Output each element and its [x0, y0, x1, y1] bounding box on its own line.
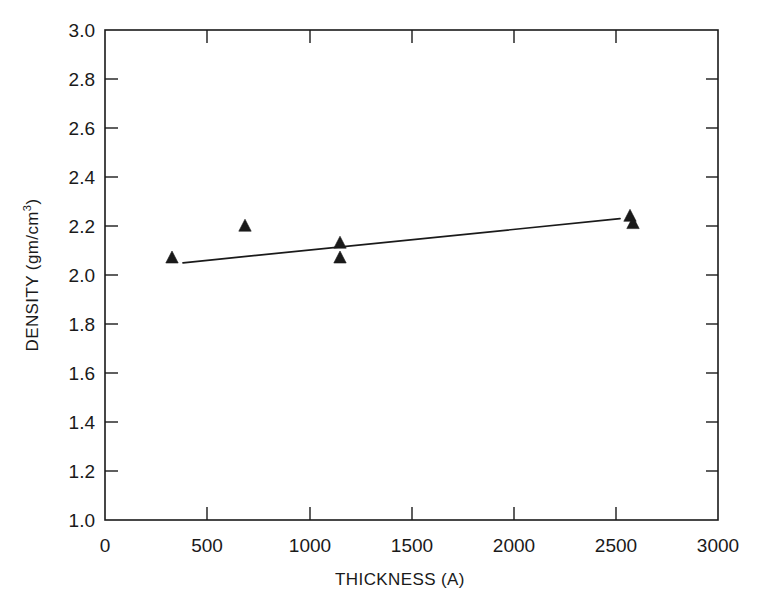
y-tick-label: 2.4 [69, 167, 96, 188]
x-tick-label: 0 [100, 535, 111, 556]
y-tick-label: 1.8 [69, 314, 95, 335]
density-vs-thickness-chart: 3.0 2.8 2.6 2.4 2.2 2.0 1.8 1.6 1.4 1.2 … [0, 0, 758, 608]
y-tick-label: 1.4 [69, 412, 96, 433]
y-tick-label: 1.2 [69, 461, 95, 482]
y-tick-label: 2.8 [69, 69, 95, 90]
x-tick-label: 3000 [697, 535, 739, 556]
y-axis-title-paren: ) [23, 199, 42, 205]
y-axis-title-main: DENSITY (gm/cm [23, 211, 42, 351]
x-tick-label: 1000 [289, 535, 331, 556]
data-point-marker [334, 251, 346, 263]
data-point-marker [239, 219, 251, 231]
data-point-marker [334, 236, 346, 248]
x-axis-ticks-top [207, 30, 616, 43]
y-tick-label: 2.2 [69, 216, 95, 237]
x-tick-labels: 0 500 1000 1500 2000 2500 3000 [100, 535, 739, 556]
plot-canvas: 3.0 2.8 2.6 2.4 2.2 2.0 1.8 1.6 1.4 1.2 … [0, 0, 758, 608]
x-tick-label: 2500 [595, 535, 637, 556]
x-axis-ticks [207, 507, 616, 520]
y-tick-label: 2.0 [69, 265, 95, 286]
x-tick-label: 500 [191, 535, 223, 556]
x-axis-title: THICKNESS (A) [335, 570, 465, 589]
y-tick-label: 1.6 [69, 363, 95, 384]
linear-fit-line [183, 219, 620, 263]
y-tick-label: 2.6 [69, 118, 95, 139]
y-tick-label: 3.0 [69, 20, 95, 41]
plot-frame [105, 30, 718, 520]
x-tick-label: 1500 [391, 535, 433, 556]
y-axis-ticks [105, 79, 118, 471]
data-point-marker [166, 251, 178, 263]
data-markers [166, 209, 639, 263]
y-axis-title: DENSITY (gm/cm3) [21, 199, 42, 352]
y-axis-ticks-right [706, 79, 718, 471]
y-tick-label: 1.0 [69, 510, 95, 531]
x-tick-label: 2000 [493, 535, 535, 556]
svg-text:DENSITY (gm/cm3): DENSITY (gm/cm3) [21, 199, 42, 352]
y-tick-labels: 3.0 2.8 2.6 2.4 2.2 2.0 1.8 1.6 1.4 1.2 … [69, 20, 96, 531]
